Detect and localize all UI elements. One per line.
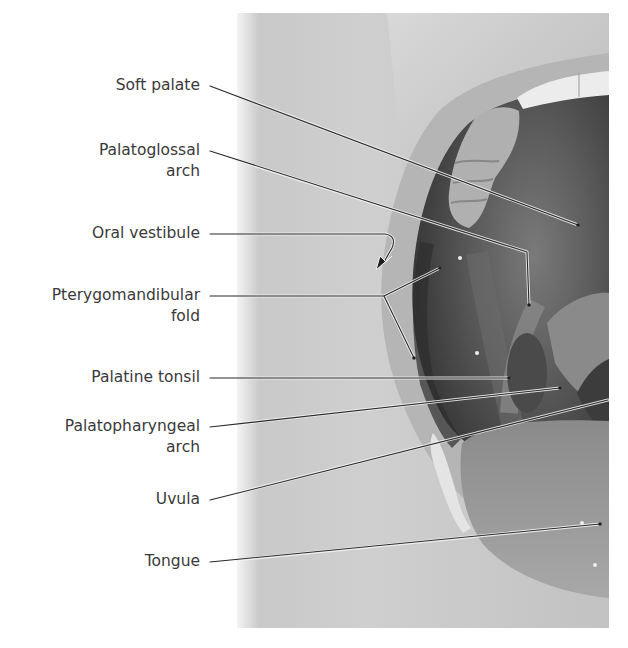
label-pterygomandibular-fold: Pterygomandibular fold	[52, 285, 200, 327]
label-tongue: Tongue	[145, 551, 200, 572]
label-palatoglossal-arch: Palatoglossal arch	[99, 140, 200, 182]
label-palatopharyngeal-arch: Palatopharyngeal arch	[65, 416, 200, 458]
label-palatine-tonsil: Palatine tonsil	[91, 367, 200, 388]
label-soft-palate: Soft palate	[116, 75, 200, 96]
label-uvula: Uvula	[156, 489, 200, 510]
anatomy-figure: Soft palate Palatoglossal arch Oral vest…	[0, 0, 628, 648]
label-oral-vestibule: Oral vestibule	[92, 223, 200, 244]
label-layer: Soft palate Palatoglossal arch Oral vest…	[0, 0, 628, 648]
